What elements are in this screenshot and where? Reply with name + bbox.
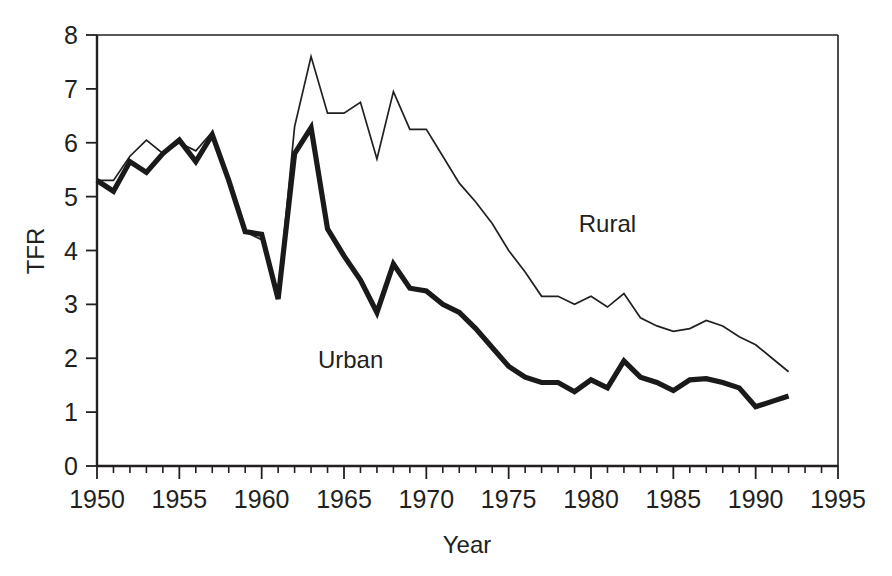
y-tick-label-1: 1	[64, 398, 78, 426]
x-tick-label-1990: 1990	[728, 485, 784, 513]
x-tick-label-1960: 1960	[234, 485, 290, 513]
x-tick-label-1955: 1955	[152, 485, 208, 513]
y-tick-label-3: 3	[64, 290, 78, 318]
x-tick-label-1965: 1965	[316, 485, 372, 513]
y-tick-label-8: 8	[64, 21, 78, 49]
series-annotation-urban: Urban	[318, 346, 383, 373]
y-tick-label-group: 012345678	[64, 21, 78, 480]
y-tick-label-0: 0	[64, 452, 78, 480]
x-tick-label-1995: 1995	[810, 485, 866, 513]
y-axis-title: TFR	[22, 228, 49, 275]
x-axis-title: Year	[443, 531, 492, 558]
y-tick-label-7: 7	[64, 75, 78, 103]
tfr-line-chart: 012345678 195019551960196519701975198019…	[0, 0, 892, 576]
x-tick-label-1985: 1985	[646, 485, 702, 513]
x-tick-label-1975: 1975	[481, 485, 537, 513]
y-tick-label-4: 4	[64, 237, 78, 265]
chart-figure: 012345678 195019551960196519701975198019…	[0, 0, 892, 576]
y-tick-label-5: 5	[64, 183, 78, 211]
x-tick-label-1970: 1970	[399, 485, 455, 513]
x-tick-label-1980: 1980	[563, 485, 619, 513]
y-tick-label-2: 2	[64, 344, 78, 372]
x-tick-label-1950: 1950	[69, 485, 125, 513]
series-annotation-rural: Rural	[579, 210, 636, 237]
y-tick-label-6: 6	[64, 129, 78, 157]
